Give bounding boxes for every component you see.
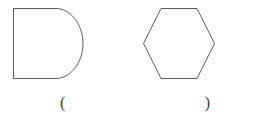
d-shape-outline [14,9,84,79]
close-paren: ) [205,95,210,111]
hexagon-outline [144,9,215,79]
answer-blank[interactable]: ( ) [60,94,210,111]
answer-input[interactable] [65,94,204,108]
answer-row: ( ) [0,88,270,116]
worksheet-canvas: ( ) [0,0,270,120]
